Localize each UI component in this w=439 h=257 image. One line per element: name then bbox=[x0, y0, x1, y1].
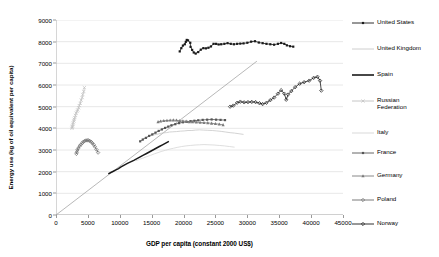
y-tick-label: 1000 bbox=[38, 190, 52, 197]
data-point bbox=[193, 51, 195, 53]
data-point bbox=[185, 41, 187, 43]
legend-item-italy[interactable]: Italy bbox=[352, 128, 388, 138]
x-tick-label: 40000 bbox=[303, 219, 320, 226]
data-point bbox=[223, 43, 225, 45]
y-tick-mark bbox=[53, 171, 56, 172]
y-tick-mark bbox=[53, 193, 56, 194]
x-tick-mark bbox=[343, 215, 344, 218]
data-point bbox=[269, 43, 271, 45]
data-point bbox=[148, 135, 150, 137]
legend-item-russian-federation[interactable]: Russian Federation bbox=[352, 96, 407, 106]
y-tick-mark bbox=[53, 63, 56, 64]
y-tick-label: 3000 bbox=[38, 147, 52, 154]
data-point bbox=[197, 51, 199, 53]
data-point bbox=[292, 46, 294, 48]
diagonal-reference-line bbox=[56, 61, 257, 215]
data-point bbox=[210, 45, 212, 47]
data-point bbox=[242, 42, 244, 44]
legend-point-icon bbox=[362, 152, 364, 154]
data-point bbox=[151, 133, 153, 135]
x-tick-mark bbox=[215, 215, 216, 218]
x-tick-mark bbox=[247, 215, 248, 218]
x-tick-mark bbox=[184, 215, 185, 218]
data-point bbox=[189, 42, 191, 44]
legend-item-norway[interactable]: Norway bbox=[352, 219, 398, 229]
x-tick-label: 30000 bbox=[239, 219, 256, 226]
data-point bbox=[174, 123, 176, 125]
data-point bbox=[189, 46, 191, 48]
data-point bbox=[218, 43, 220, 45]
legend-item-label: Spain bbox=[374, 70, 393, 78]
data-point bbox=[215, 119, 217, 121]
x-tick-mark bbox=[120, 215, 121, 218]
data-point bbox=[211, 118, 213, 120]
data-point bbox=[262, 42, 264, 44]
y-axis-title-text: Energy use (kg of oil equivalent per cap… bbox=[7, 65, 14, 189]
series-line bbox=[136, 145, 235, 161]
series-italy bbox=[136, 145, 235, 161]
y-tick-label: 8000 bbox=[38, 38, 52, 45]
legend-marker-icon bbox=[352, 44, 374, 54]
data-point bbox=[191, 49, 193, 51]
data-point bbox=[180, 47, 182, 49]
legend-item-label: Italy bbox=[374, 128, 388, 136]
data-point bbox=[205, 47, 207, 49]
legend-item-germany[interactable]: Germany bbox=[352, 171, 402, 181]
data-point bbox=[167, 126, 169, 128]
data-point bbox=[179, 50, 181, 52]
y-tick-label: 9000 bbox=[38, 17, 52, 24]
y-tick-label: 5000 bbox=[38, 103, 52, 110]
x-tick-mark bbox=[311, 215, 312, 218]
x-tick-mark bbox=[88, 215, 89, 218]
series-russian-federation bbox=[70, 86, 86, 130]
data-point bbox=[220, 43, 222, 45]
data-point bbox=[265, 43, 267, 45]
y-tick-mark bbox=[53, 41, 56, 42]
legend-marker-icon bbox=[352, 70, 374, 80]
y-tick-mark bbox=[53, 85, 56, 86]
data-point bbox=[200, 49, 202, 51]
x-tick-label: 25000 bbox=[207, 219, 224, 226]
legend-marker-icon bbox=[352, 18, 374, 28]
data-point bbox=[226, 42, 228, 44]
legend-marker-icon bbox=[352, 171, 374, 181]
y-tick-mark bbox=[53, 106, 56, 107]
x-axis-title: GDP per capita (constant 2000 US$) bbox=[56, 240, 343, 247]
data-point bbox=[224, 119, 226, 121]
legend-marker-icon bbox=[352, 148, 374, 158]
x-tick-label: 10000 bbox=[111, 219, 128, 226]
data-point bbox=[145, 137, 147, 139]
x-tick-mark bbox=[279, 215, 280, 218]
y-tick-mark bbox=[53, 128, 56, 129]
data-point bbox=[184, 43, 186, 45]
legend-item-france[interactable]: France bbox=[352, 148, 396, 158]
x-tick-label: 35000 bbox=[271, 219, 288, 226]
y-tick-label: 2000 bbox=[38, 168, 52, 175]
data-point bbox=[139, 140, 141, 142]
data-point bbox=[170, 124, 172, 126]
data-point bbox=[158, 130, 160, 132]
legend-marker-icon bbox=[352, 219, 374, 229]
data-point bbox=[182, 44, 184, 46]
x-tick-label: 15000 bbox=[143, 219, 160, 226]
energy-gdp-scatter-chart: Energy use (kg of oil equivalent per cap… bbox=[0, 0, 439, 257]
data-point bbox=[250, 41, 252, 43]
series-spain bbox=[108, 141, 169, 173]
series-united-states bbox=[179, 39, 295, 55]
legend-item-label: United Kingdom bbox=[374, 44, 421, 52]
data-point bbox=[273, 44, 275, 46]
data-point bbox=[239, 43, 241, 45]
data-point bbox=[277, 43, 279, 45]
data-point bbox=[202, 119, 204, 121]
legend-item-united-states[interactable]: United States bbox=[352, 18, 414, 28]
x-tick-mark bbox=[152, 215, 153, 218]
legend-item-united-kingdom[interactable]: United Kingdom bbox=[352, 44, 421, 54]
legend-item-label: France bbox=[374, 148, 396, 156]
data-point bbox=[96, 151, 99, 154]
legend-marker-icon bbox=[352, 96, 374, 106]
x-tick-label: 45000 bbox=[334, 219, 351, 226]
legend-item-poland[interactable]: Poland bbox=[352, 195, 396, 205]
x-tick-label: 0 bbox=[54, 219, 57, 226]
legend-item-spain[interactable]: Spain bbox=[352, 70, 393, 80]
data-point bbox=[215, 43, 217, 45]
